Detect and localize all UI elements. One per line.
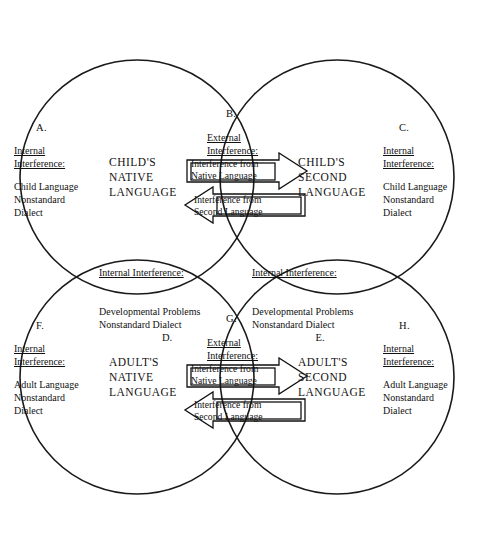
section-c-heading: Internal Interference: (383, 144, 434, 170)
section-e-block: Internal Interference: Developmental Pro… (252, 253, 388, 358)
section-a-heading: Internal Interference: (14, 144, 65, 170)
section-label-e: E. (252, 331, 388, 345)
section-g-arrow-right-label: Interference from Native Language (191, 363, 258, 388)
section-label-f: F. (36, 320, 44, 333)
section-h-heading: Internal Interference: (383, 342, 434, 368)
label-adults-native-language: ADULT'S NATIVE LANGUAGE (109, 355, 177, 401)
section-label-b: B. (226, 108, 236, 121)
venn-circles (0, 0, 478, 544)
section-d-heading: Internal Interference: (99, 267, 184, 278)
label-childs-second-language: CHILD'S SECOND LANGUAGE (298, 155, 366, 201)
section-e-body: Developmental Problems Nonstandard Diale… (252, 306, 353, 330)
section-b-arrow-left-label: Interference from Second Language (194, 194, 262, 219)
venn-diagram-figure: A. Internal Interference: Child Language… (0, 0, 478, 544)
section-label-c: C. (399, 122, 409, 135)
section-label-a: A. (36, 122, 47, 135)
section-h-body: Adult Language Nonstandard Dialect (383, 379, 448, 417)
section-d-body: Developmental Problems Nonstandard Diale… (99, 306, 200, 330)
label-adults-second-language: ADULT'S SECOND LANGUAGE (298, 355, 366, 401)
section-c-body: Child Language Nonstandard Dialect (383, 181, 447, 219)
section-g-arrow-left-label: Interference from Second Language (194, 399, 262, 424)
section-a-body: Child Language Nonstandard Dialect (14, 181, 78, 219)
section-label-g: G. (226, 313, 237, 326)
section-f-body: Adult Language Nonstandard Dialect (14, 379, 79, 417)
section-g-interference-arrows: Interference from Native Language Interf… (183, 357, 309, 431)
section-b-arrow-right-label: Interference from Native Language (191, 158, 258, 183)
label-childs-native-language: CHILD'S NATIVE LANGUAGE (109, 155, 177, 201)
section-b-interference-arrows: Interference from Native Language Interf… (183, 152, 309, 226)
section-e-heading: Internal Interference: (252, 267, 337, 278)
section-f-heading: Internal Interference: (14, 342, 65, 368)
section-label-h: H. (399, 320, 410, 333)
